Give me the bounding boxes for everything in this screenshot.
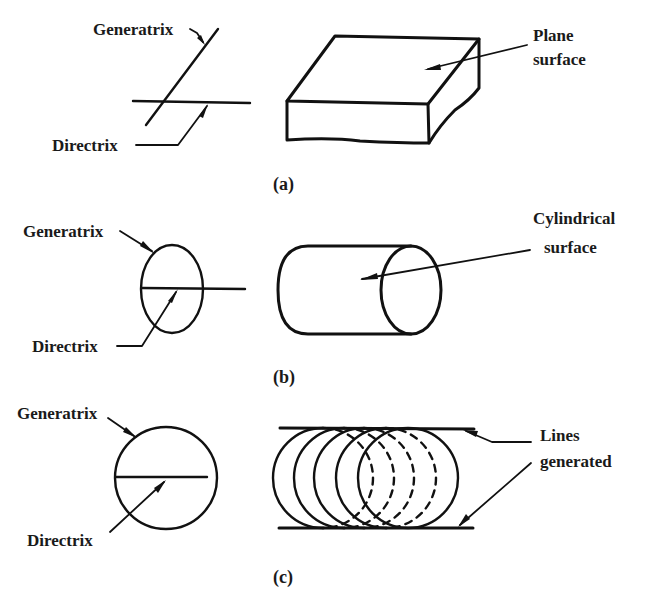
panel-b: Generatrix Directrix Cylindrical surface…	[23, 209, 615, 388]
panel-a-directrix-label: Directrix	[52, 136, 118, 155]
cylindrical-label-line2: surface	[544, 238, 597, 257]
panel-b-construction	[117, 231, 245, 346]
lines-generated-top-arrowhead-icon	[463, 430, 478, 437]
generatrix-line	[146, 29, 218, 125]
slab-top-face	[287, 36, 479, 104]
cylinder-end-ellipse	[381, 246, 441, 334]
generatrix-arrowhead-icon	[197, 35, 205, 45]
directrix-line	[133, 101, 250, 103]
directrix-arrowhead-icon	[199, 104, 208, 118]
lines-generated-bottom-leader	[460, 463, 531, 525]
slab-front-face	[287, 101, 429, 143]
panel-b-generatrix-label: Generatrix	[23, 222, 104, 241]
lines-label-line1: Lines	[540, 426, 580, 445]
directrix-line	[142, 288, 245, 289]
circle-3-front	[314, 428, 364, 528]
plane-label-line2: surface	[533, 50, 586, 69]
panel-b-directrix-label: Directrix	[32, 337, 98, 356]
directrix-arrowhead-icon	[168, 289, 178, 303]
lines-generated-bottom-arrowhead-icon	[458, 514, 470, 527]
panel-a-caption: (a)	[273, 174, 294, 195]
panel-c: Generatrix Directrix Lines generated (c)	[17, 404, 612, 588]
panel-a: Generatrix Directrix Plane surface (a)	[52, 20, 586, 195]
lines-label-line2: generated	[540, 452, 612, 471]
circle-1-front	[273, 428, 323, 528]
cylindrical-label-line1: Cylindrical	[533, 209, 615, 228]
plane-surface-arrowhead-icon	[424, 64, 441, 70]
panel-a-construction	[133, 29, 250, 145]
generatrix-arrowhead-icon	[140, 241, 155, 254]
directrix-arrowhead-icon	[154, 480, 166, 493]
panel-a-generatrix-label: Generatrix	[93, 20, 174, 39]
panel-c-caption: (c)	[273, 567, 293, 588]
cylindrical-surface-arrowhead-icon	[360, 273, 378, 280]
panel-c-construction	[108, 418, 217, 532]
generatrix-arrowhead-icon	[123, 427, 137, 438]
panel-c-directrix-label: Directrix	[27, 531, 93, 550]
cylinder	[278, 246, 441, 334]
directrix-leader	[117, 292, 176, 346]
panel-b-caption: (b)	[273, 367, 295, 388]
plane-label-line1: Plane	[533, 26, 574, 45]
swept-circles	[273, 428, 474, 528]
generatrix-directrix-figure: Generatrix Directrix Plane surface (a) G…	[0, 0, 650, 602]
circle-1-back	[323, 428, 373, 528]
panel-c-generatrix-label: Generatrix	[17, 404, 98, 423]
plane-slab	[287, 36, 479, 143]
